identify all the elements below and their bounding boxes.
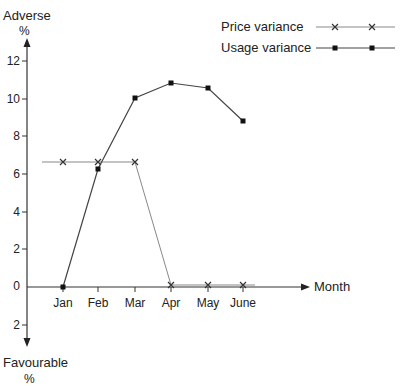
y-tick-label: 4 xyxy=(0,205,20,219)
legend-price-sample xyxy=(316,24,395,30)
x-tick-label: Apr xyxy=(153,296,189,310)
y-tick-label: 2 xyxy=(0,318,20,332)
legend-price-label: Price variance xyxy=(221,19,303,34)
legend-usage-label: Usage variance xyxy=(221,40,311,55)
legend-usage-sample xyxy=(316,46,395,51)
usage-variance-markers xyxy=(61,81,246,290)
y-axis-favourable-pct: % xyxy=(24,372,35,386)
x-tick-label: May xyxy=(190,296,226,310)
x-tick-label: June xyxy=(225,296,261,310)
price-variance-line xyxy=(42,162,255,285)
x-axis-arrow-icon xyxy=(301,284,310,291)
y-axis-arrow-down-icon xyxy=(24,338,31,347)
x-axis-month-label: Month xyxy=(314,279,350,294)
y-tick-label: 6 xyxy=(0,167,20,181)
x-tick-label: Mar xyxy=(117,296,153,310)
y-axis-arrow-up-icon xyxy=(24,38,31,47)
y-tick-label: 2 xyxy=(0,242,20,256)
y-axis-adverse-pct: % xyxy=(19,24,30,38)
y-axis-favourable-label: Favourable xyxy=(3,355,68,370)
y-tick-label: 10 xyxy=(0,92,20,106)
y-ticks xyxy=(22,61,27,325)
y-tick-label: 12 xyxy=(0,54,20,68)
x-ticks xyxy=(63,287,243,292)
y-tick-label: 0 xyxy=(0,279,20,293)
y-axis-adverse-label: Adverse xyxy=(3,8,51,23)
usage-variance-line xyxy=(63,83,243,287)
y-tick-label: 8 xyxy=(0,129,20,143)
x-tick-label: Jan xyxy=(45,296,81,310)
x-tick-label: Feb xyxy=(80,296,116,310)
